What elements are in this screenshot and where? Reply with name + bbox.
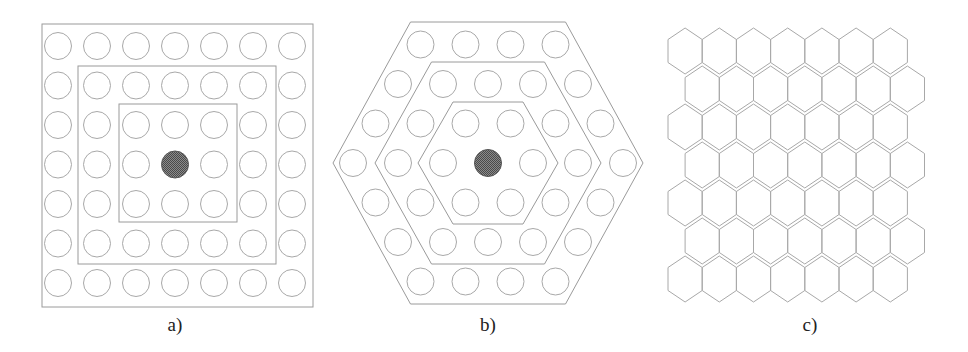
hexagon-cell bbox=[839, 104, 873, 150]
lattice-node bbox=[84, 112, 111, 139]
hexagon-cell bbox=[685, 66, 719, 112]
lattice-node bbox=[45, 72, 72, 99]
lattice-node bbox=[452, 110, 479, 137]
hexagon-cell bbox=[856, 218, 890, 264]
lattice-node bbox=[520, 229, 547, 256]
lattice-node bbox=[430, 150, 457, 177]
lattice-node bbox=[497, 110, 524, 137]
hexagon-cell bbox=[668, 104, 702, 150]
hexagon-cell bbox=[736, 104, 770, 150]
hexagon-cell bbox=[805, 256, 839, 302]
lattice-node bbox=[385, 229, 412, 256]
lattice-node bbox=[201, 230, 228, 257]
lattice-node bbox=[84, 230, 111, 257]
hexagon-cell bbox=[685, 218, 719, 264]
lattice-node bbox=[84, 72, 111, 99]
lattice-node bbox=[385, 150, 412, 177]
lattice-node bbox=[279, 151, 306, 178]
center-node bbox=[475, 150, 502, 177]
lattice-node bbox=[475, 229, 502, 256]
lattice-node bbox=[123, 112, 150, 139]
lattice-node bbox=[201, 151, 228, 178]
hexagon-cell bbox=[822, 66, 856, 112]
lattice-node bbox=[279, 230, 306, 257]
lattice-node bbox=[240, 191, 267, 218]
hexagon-cell bbox=[890, 218, 924, 264]
lattice-node bbox=[201, 72, 228, 99]
hexagon-cell bbox=[736, 180, 770, 226]
hexagon-cell bbox=[873, 104, 907, 150]
lattice-node bbox=[407, 110, 434, 137]
lattice-node bbox=[162, 33, 189, 60]
hexagon-cell bbox=[702, 180, 736, 226]
hexagon-cell bbox=[771, 28, 805, 74]
lattice-node bbox=[565, 71, 592, 98]
hexagon-cell bbox=[873, 180, 907, 226]
lattice-node bbox=[45, 230, 72, 257]
lattice-node bbox=[452, 268, 479, 295]
hexagon-cell bbox=[736, 256, 770, 302]
figure-canvas bbox=[0, 0, 968, 352]
lattice-node bbox=[279, 72, 306, 99]
hexagon-cell bbox=[668, 180, 702, 226]
lattice-node bbox=[123, 270, 150, 297]
lattice-node bbox=[340, 150, 367, 177]
hexagon-cell bbox=[839, 256, 873, 302]
hexagon-cell bbox=[719, 218, 753, 264]
lattice-node bbox=[45, 191, 72, 218]
lattice-node bbox=[520, 150, 547, 177]
lattice-node bbox=[240, 112, 267, 139]
lattice-node bbox=[201, 112, 228, 139]
lattice-node bbox=[430, 229, 457, 256]
hexagon-cell bbox=[771, 256, 805, 302]
lattice-node bbox=[45, 33, 72, 60]
lattice-node bbox=[45, 270, 72, 297]
lattice-node bbox=[240, 72, 267, 99]
hexagon-cell bbox=[890, 142, 924, 188]
lattice-node bbox=[201, 33, 228, 60]
hexagon-cell bbox=[702, 28, 736, 74]
hexagon-cell bbox=[685, 142, 719, 188]
lattice-node bbox=[279, 191, 306, 218]
hexagon-cell bbox=[873, 256, 907, 302]
hexagon-cell bbox=[788, 66, 822, 112]
hexagon-cell bbox=[839, 180, 873, 226]
hexagon-cell bbox=[754, 218, 788, 264]
lattice-node bbox=[587, 189, 614, 216]
lattice-node bbox=[240, 230, 267, 257]
lattice-node bbox=[84, 33, 111, 60]
lattice-node bbox=[45, 112, 72, 139]
lattice-node bbox=[162, 270, 189, 297]
lattice-node bbox=[84, 151, 111, 178]
hexagon-cell bbox=[771, 104, 805, 150]
lattice-node bbox=[587, 110, 614, 137]
hexagon-cell bbox=[873, 28, 907, 74]
lattice-node bbox=[240, 270, 267, 297]
lattice-node bbox=[610, 150, 637, 177]
lattice-node bbox=[162, 230, 189, 257]
hexagon-cell bbox=[788, 218, 822, 264]
center-node bbox=[162, 151, 189, 178]
lattice-node bbox=[162, 72, 189, 99]
lattice-node bbox=[407, 189, 434, 216]
lattice-node bbox=[240, 33, 267, 60]
lattice-node bbox=[362, 189, 389, 216]
lattice-node bbox=[385, 71, 412, 98]
hexagon-cell bbox=[668, 28, 702, 74]
lattice-node bbox=[497, 189, 524, 216]
hexagon-cell bbox=[839, 28, 873, 74]
lattice-node bbox=[565, 150, 592, 177]
lattice-node bbox=[542, 189, 569, 216]
panel-b-label: b) bbox=[480, 314, 496, 336]
lattice-node bbox=[475, 71, 502, 98]
lattice-node bbox=[542, 268, 569, 295]
hexagon-cell bbox=[754, 142, 788, 188]
panel-c-label: c) bbox=[803, 314, 818, 336]
hexagon-cell bbox=[822, 218, 856, 264]
lattice-node bbox=[201, 270, 228, 297]
panel-b-hexagonal-lattice bbox=[333, 22, 643, 304]
hexagon-cell bbox=[822, 142, 856, 188]
lattice-node bbox=[240, 151, 267, 178]
panel-c-hexagon-tiling bbox=[668, 28, 925, 302]
hexagon-cell bbox=[788, 142, 822, 188]
